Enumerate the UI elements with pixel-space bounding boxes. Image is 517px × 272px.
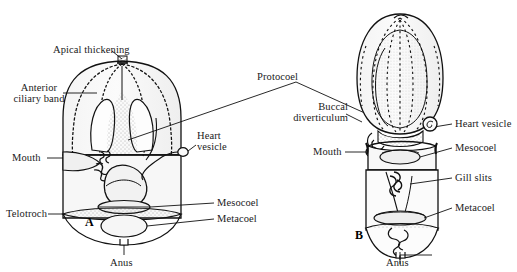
label-buccal-diverticulum-line2: diverticulum: [293, 112, 348, 123]
label-telotroch: Telotroch: [6, 208, 47, 220]
label-apical-thickening: Apical thickening: [53, 44, 130, 56]
label-gill-slits: Gill slits: [455, 172, 492, 184]
mesocoel-b: [380, 150, 420, 164]
metacoel-a: [101, 215, 147, 237]
label-mouth-b: Mouth: [313, 146, 342, 158]
panel-a-drawing: [47, 51, 214, 255]
apical-thickening-structure: [117, 56, 128, 63]
label-anterior-ciliary-band: Anterior ciliary band: [8, 82, 70, 104]
label-mesocoel-b: Mesocoel: [455, 142, 497, 154]
label-anterior-ciliary-band-line1: Anterior: [21, 82, 57, 93]
label-protocoel: Protocoel: [257, 71, 298, 83]
label-anterior-ciliary-band-line2: ciliary band: [13, 93, 64, 104]
label-mesocoel-a: Mesocoel: [217, 197, 259, 209]
label-anus-a: Anus: [110, 257, 133, 269]
illustration-svg: [0, 0, 517, 272]
panel-b-drawing: [345, 14, 452, 264]
label-metacoel-a: Metacoel: [217, 213, 257, 225]
label-buccal-diverticulum-line1: Buccal: [318, 101, 348, 112]
panel-letter-a: A: [85, 215, 94, 230]
label-heart-vesicle-a-line2: vesicle: [197, 141, 227, 152]
label-mouth-a: Mouth: [12, 152, 41, 164]
metacoel-b: [374, 211, 426, 225]
label-metacoel-b: Metacoel: [455, 202, 495, 214]
panel-letter-b: B: [355, 228, 363, 243]
label-anus-b: Anus: [386, 257, 409, 269]
label-heart-vesicle-b: Heart vesicle: [455, 118, 511, 130]
label-heart-vesicle-a: Heart vesicle: [197, 130, 237, 152]
label-buccal-diverticulum: Buccal diverticulum: [290, 101, 348, 123]
figure-canvas: Apical thickening Anterior ciliary band …: [0, 0, 517, 272]
heart-vesicle-a: [178, 148, 188, 157]
label-heart-vesicle-a-line1: Heart: [197, 130, 221, 141]
heart-vesicle-b: [423, 117, 437, 131]
